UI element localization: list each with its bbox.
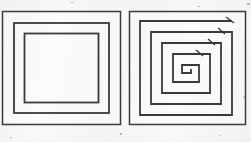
spiral-outer-frame xyxy=(130,12,246,125)
figure-root: - xyxy=(0,0,251,142)
square-spiral-svg xyxy=(126,0,251,142)
spiral-step-nicks xyxy=(196,17,234,56)
panel-concentric-squares xyxy=(0,0,124,142)
concentric-squares-svg xyxy=(0,0,124,142)
concentric-ring-inner xyxy=(25,34,99,103)
spiral-path xyxy=(140,21,232,115)
spiral-nick-3 xyxy=(208,39,215,45)
figure-stage xyxy=(0,0,251,142)
concentric-ring-middle xyxy=(14,23,109,113)
spiral-nick-2 xyxy=(218,28,225,34)
spiral-nick-1 xyxy=(226,17,234,23)
spiral-nick-4 xyxy=(196,50,203,56)
panel-square-spiral xyxy=(126,0,251,142)
square-spiral-group xyxy=(130,12,246,125)
concentric-rings-group xyxy=(3,12,121,125)
concentric-ring-outer xyxy=(3,12,121,125)
